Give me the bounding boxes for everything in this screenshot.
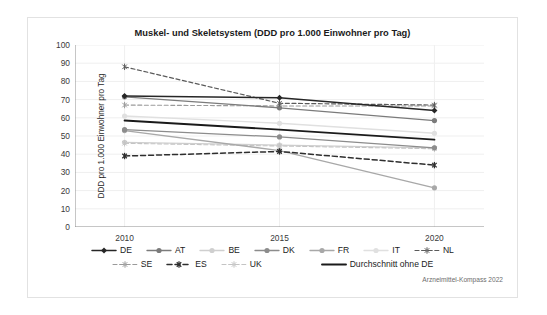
legend-key-durchschnitt-ohne-de-icon	[321, 259, 347, 270]
source-note: Arzneimittel-Kompass 2022	[422, 276, 503, 283]
y-tick-label: 80	[61, 76, 70, 86]
legend-item-uk[interactable]: UK	[221, 259, 262, 270]
y-tick-label: 60	[61, 113, 70, 123]
plot-area: DDD pro 1.000 Einwohner pro Tag 01020304…	[75, 45, 484, 227]
legend-item-dk[interactable]: DK	[254, 245, 295, 256]
legend-item-at[interactable]: AT	[146, 245, 185, 256]
legend-key-de-icon	[91, 245, 117, 256]
chart-title: Muskel- und Skeletsystem (DDD pro 1.000 …	[28, 28, 517, 38]
chart-svg	[75, 45, 484, 227]
y-tick-label: 70	[61, 95, 70, 105]
chart-card: Muskel- und Skeletsystem (DDD pro 1.000 …	[27, 17, 518, 298]
legend-row-secondary: SEESUKDurchschnitt ohne DE	[28, 257, 517, 271]
legend-label: BE	[228, 245, 239, 255]
y-tick-label: 90	[61, 58, 70, 68]
legend-label: NL	[443, 245, 454, 255]
x-tick-label: 2010	[115, 233, 134, 243]
legend-label: UK	[250, 259, 262, 269]
y-tick-label: 20	[61, 186, 70, 196]
y-tick-label: 10	[61, 204, 70, 214]
y-tick-label: 0	[65, 222, 70, 232]
legend-key-es-icon	[166, 259, 192, 270]
legend-item-it[interactable]: IT	[363, 245, 400, 256]
legend-key-fr-icon	[309, 245, 335, 256]
legend-item-es[interactable]: ES	[166, 259, 206, 270]
legend-key-nl-icon	[414, 245, 440, 256]
legend-item-be[interactable]: BE	[199, 245, 239, 256]
legend-label: DE	[120, 245, 132, 255]
x-tick-label: 2015	[270, 233, 289, 243]
y-tick-label: 30	[61, 167, 70, 177]
x-tick-label: 2020	[425, 233, 444, 243]
y-tick-label: 100	[56, 40, 70, 50]
legend-key-at-icon	[146, 245, 172, 256]
legend-key-se-icon	[112, 259, 138, 270]
legend-key-uk-icon	[221, 259, 247, 270]
y-tick-label: 50	[61, 131, 70, 141]
legend-label: AT	[175, 245, 185, 255]
y-tick-label: 40	[61, 149, 70, 159]
legend-row-primary: DEATBEDKFRITNL	[28, 243, 517, 257]
legend-key-be-icon	[199, 245, 225, 256]
legend-key-it-icon	[363, 245, 389, 256]
legend-label: ES	[195, 259, 206, 269]
legend-item-de[interactable]: DE	[91, 245, 132, 256]
legend-label: IT	[392, 245, 400, 255]
legend-item-se[interactable]: SE	[112, 259, 152, 270]
legend-item-nl[interactable]: NL	[414, 245, 454, 256]
chart-legend: DEATBEDKFRITNL SEESUKDurchschnitt ohne D…	[28, 243, 517, 271]
legend-label: SE	[141, 259, 152, 269]
legend-label: DK	[283, 245, 295, 255]
legend-item-durchschnitt-ohne-de[interactable]: Durchschnitt ohne DE	[321, 259, 434, 270]
legend-item-fr[interactable]: FR	[309, 245, 349, 256]
y-axis-title: DDD pro 1.000 Einwohner pro Tag	[97, 73, 106, 198]
legend-label: FR	[338, 245, 349, 255]
legend-key-dk-icon	[254, 245, 280, 256]
legend-label: Durchschnitt ohne DE	[350, 259, 434, 269]
